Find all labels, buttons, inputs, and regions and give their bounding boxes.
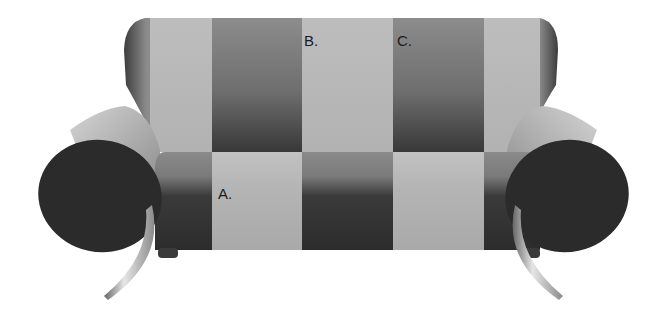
label-c: C. <box>397 33 412 48</box>
sofa-graphic <box>0 0 667 327</box>
label-b: B. <box>304 33 318 48</box>
sofa-illustration: B. C. A. <box>0 0 667 327</box>
label-a: A. <box>218 186 232 201</box>
